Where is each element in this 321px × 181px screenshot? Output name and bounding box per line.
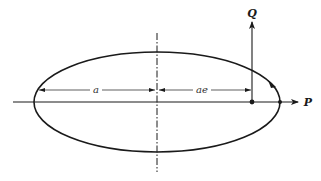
- periapsis-point: [278, 100, 282, 104]
- label-a: a: [93, 84, 99, 95]
- label-ae: ae: [196, 84, 208, 95]
- focus-point: [250, 100, 255, 105]
- orbit-diagram: a ae Q P: [0, 0, 321, 181]
- label-q: Q: [247, 7, 257, 20]
- label-p: P: [303, 96, 313, 109]
- direction-arrow-icon: [268, 80, 276, 88]
